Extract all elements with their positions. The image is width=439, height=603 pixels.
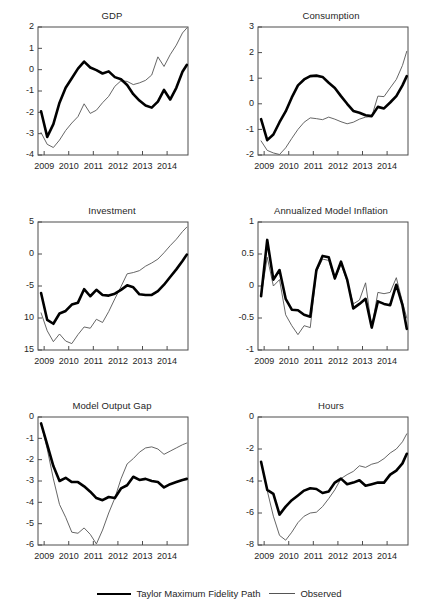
panel-gdp: GDP 210-1-2-3-4200920102011201220132014 [8, 10, 216, 195]
y-tick-label: -4 [246, 475, 254, 485]
panel-title: Investment [8, 205, 216, 216]
x-tick-label: 2010 [59, 161, 79, 171]
x-tick-label: 2014 [157, 356, 177, 366]
x-tick-label: 2014 [157, 161, 177, 171]
thick-line-swatch-icon [97, 593, 131, 595]
y-tick-label: 1 [249, 73, 254, 83]
legend-entry-observed: Observed [269, 588, 341, 599]
plot-frame [258, 27, 408, 155]
chart-svg: 50-51015200920102011201220132014 [8, 218, 196, 376]
panel-title: Annualized Model Inflation [228, 205, 434, 216]
x-tick-label: 2011 [84, 356, 103, 366]
legend: Taylor Maximum Fidelity Path Observed [0, 588, 439, 599]
x-tick-label: 2009 [254, 551, 274, 561]
y-tick-label: -2 [246, 149, 254, 159]
x-tick-label: 2010 [279, 161, 299, 171]
thin-line-swatch-icon [269, 593, 295, 594]
chart-svg: 0-1-2-3-4-5-6200920102011201220132014 [8, 413, 196, 571]
y-tick-label: 2 [249, 47, 254, 57]
figure-root: GDP 210-1-2-3-4200920102011201220132014 … [0, 0, 439, 603]
y-tick-label: -4 [26, 497, 34, 507]
x-tick-label: 2013 [352, 551, 372, 561]
y-tick-label: -8 [246, 539, 254, 549]
x-tick-label: 2009 [254, 356, 274, 366]
y-tick-label: -0.5 [238, 312, 254, 322]
y-tick-label: 2 [29, 21, 34, 31]
legend-label: Taylor Maximum Fidelity Path [136, 588, 260, 599]
y-tick-label: 0 [249, 98, 254, 108]
y-tick-label: -2 [26, 107, 34, 117]
y-tick-label: -5 [26, 280, 34, 290]
y-tick-label: -1 [26, 85, 34, 95]
x-tick-label: 2011 [84, 551, 103, 561]
x-tick-label: 2011 [304, 356, 323, 366]
x-tick-label: 2010 [59, 356, 79, 366]
x-tick-label: 2011 [84, 161, 103, 171]
y-tick-label: 3 [249, 21, 254, 31]
x-tick-label: 2009 [34, 161, 54, 171]
y-tick-label: -3 [26, 128, 34, 138]
y-tick-label: 10 [24, 312, 34, 322]
plot-area: 10.50-0.5-1200920102011201220132014 [228, 218, 416, 376]
panel-title: Model Output Gap [8, 400, 216, 411]
y-tick-label: -1 [246, 124, 254, 134]
y-tick-label: 0 [249, 280, 254, 290]
x-tick-label: 2010 [279, 356, 299, 366]
legend-label: Observed [300, 588, 341, 599]
panel-annualized-model-inflation: Annualized Model Inflation 10.50-0.5-120… [228, 205, 434, 390]
x-tick-label: 2012 [328, 356, 348, 366]
y-tick-label: 15 [24, 344, 34, 354]
x-tick-label: 2013 [352, 161, 372, 171]
x-tick-label: 2012 [108, 551, 128, 561]
x-tick-label: 2014 [377, 551, 397, 561]
plot-area: 50-51015200920102011201220132014 [8, 218, 196, 376]
panel-model-output-gap: Model Output Gap 0-1-2-3-4-5-62009201020… [8, 400, 216, 585]
x-tick-label: 2012 [108, 356, 128, 366]
legend-entry-model: Taylor Maximum Fidelity Path [97, 588, 260, 599]
chart-svg: 210-1-2-3-4200920102011201220132014 [8, 23, 196, 181]
y-tick-label: -2 [246, 443, 254, 453]
plot-area: 0-1-2-3-4-5-6200920102011201220132014 [8, 413, 196, 571]
y-tick-label: 1 [29, 43, 34, 53]
plot-area: 3210-1-2200920102011201220132014 [228, 23, 416, 181]
chart-svg: 10.50-0.5-1200920102011201220132014 [228, 218, 416, 376]
panel-investment: Investment 50-51015200920102011201220132… [8, 205, 216, 390]
y-tick-label: -5 [26, 518, 34, 528]
plot-area: 210-1-2-3-4200920102011201220132014 [8, 23, 196, 181]
y-tick-label: 1 [249, 216, 254, 226]
x-tick-label: 2012 [108, 161, 128, 171]
y-tick-label: 0 [249, 411, 254, 421]
x-tick-label: 2014 [157, 551, 177, 561]
x-tick-label: 2012 [328, 161, 348, 171]
plot-frame [38, 222, 188, 350]
y-tick-label: -2 [26, 454, 34, 464]
x-tick-label: 2009 [254, 161, 274, 171]
y-tick-label: 0 [29, 248, 34, 258]
chart-svg: 0-2-4-6-8200920102011201220132014 [228, 413, 416, 571]
panel-consumption: Consumption 3210-1-220092010201120122013… [228, 10, 434, 195]
x-tick-label: 2010 [279, 551, 299, 561]
x-tick-label: 2013 [132, 551, 152, 561]
y-tick-label: -3 [26, 475, 34, 485]
y-tick-label: -4 [26, 149, 34, 159]
y-tick-label: 0 [29, 64, 34, 74]
x-tick-label: 2013 [352, 356, 372, 366]
y-tick-label: -1 [246, 344, 254, 354]
panel-title: Hours [228, 400, 434, 411]
x-tick-label: 2012 [328, 551, 348, 561]
y-tick-label: -6 [246, 507, 254, 517]
x-tick-label: 2013 [132, 161, 152, 171]
y-tick-label: -6 [26, 539, 34, 549]
x-tick-label: 2011 [304, 551, 323, 561]
x-tick-label: 2013 [132, 356, 152, 366]
y-tick-label: 5 [29, 216, 34, 226]
x-tick-label: 2014 [377, 356, 397, 366]
y-tick-label: 0.5 [241, 248, 254, 258]
x-tick-label: 2011 [304, 161, 323, 171]
panel-title: GDP [8, 10, 216, 21]
y-tick-label: -1 [26, 433, 34, 443]
plot-area: 0-2-4-6-8200920102011201220132014 [228, 413, 416, 571]
x-tick-label: 2014 [377, 161, 397, 171]
x-tick-label: 2009 [34, 551, 54, 561]
panel-title: Consumption [228, 10, 434, 21]
